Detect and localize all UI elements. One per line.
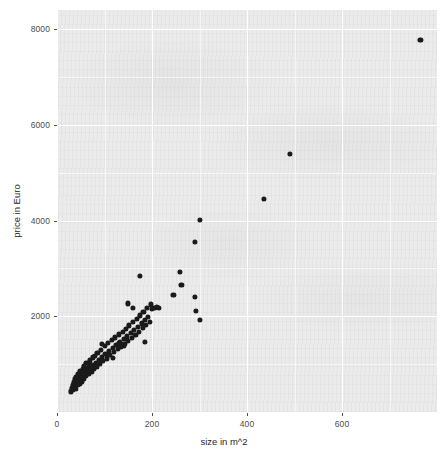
- gridline-major-vertical: [57, 10, 58, 412]
- y-axis-tick-mark: [54, 221, 57, 222]
- gridline-minor-vertical: [390, 10, 391, 412]
- gridline-major-vertical: [342, 10, 343, 412]
- data-point: [193, 308, 198, 313]
- x-axis-tick-mark: [57, 413, 58, 416]
- x-axis-tick-mark: [152, 413, 153, 416]
- gridline-major-vertical: [247, 10, 248, 412]
- data-point: [418, 37, 423, 42]
- x-axis-tick-mark: [342, 413, 343, 416]
- x-axis-title: size in m^2: [0, 436, 448, 447]
- data-point: [171, 292, 176, 297]
- gridline-minor-horizontal: [57, 77, 437, 78]
- data-point: [179, 283, 184, 288]
- y-axis-tick-label: 2000: [0, 311, 50, 321]
- y-axis-tick-mark: [54, 316, 57, 317]
- x-axis-tick-label: 400: [240, 419, 254, 429]
- data-point: [110, 355, 115, 360]
- y-axis-tick-mark: [54, 125, 57, 126]
- data-point: [192, 240, 197, 245]
- data-point: [138, 273, 143, 278]
- data-point: [287, 151, 292, 156]
- gridline-minor-horizontal: [57, 364, 437, 365]
- gridline-major-vertical: [152, 10, 153, 412]
- data-point: [192, 295, 197, 300]
- data-point: [142, 340, 147, 345]
- y-axis-tick-label: 8000: [0, 24, 50, 34]
- data-point: [130, 305, 135, 310]
- gridline-minor-horizontal: [57, 173, 437, 174]
- gridline-minor-vertical: [295, 10, 296, 412]
- x-axis-tick-label: 0: [55, 419, 60, 429]
- y-axis-tick-label: 6000: [0, 120, 50, 130]
- gridline-minor-horizontal: [57, 268, 437, 269]
- plot-panel: [57, 10, 437, 412]
- data-point: [121, 343, 126, 348]
- y-axis-tick-mark: [54, 29, 57, 30]
- data-point: [197, 317, 202, 322]
- data-point: [177, 270, 182, 275]
- x-axis-tick-label: 600: [335, 419, 349, 429]
- data-point: [157, 306, 162, 311]
- y-axis-title: price in Euro: [11, 184, 22, 237]
- gridline-minor-vertical: [200, 10, 201, 412]
- y-axis-tick-label: 4000: [0, 216, 50, 226]
- data-point: [261, 196, 266, 201]
- x-axis-tick-mark: [247, 413, 248, 416]
- scatter-plot-figure: 2000400060008000 0200400600 price in Eur…: [0, 0, 448, 463]
- x-axis-tick-label: 200: [145, 419, 159, 429]
